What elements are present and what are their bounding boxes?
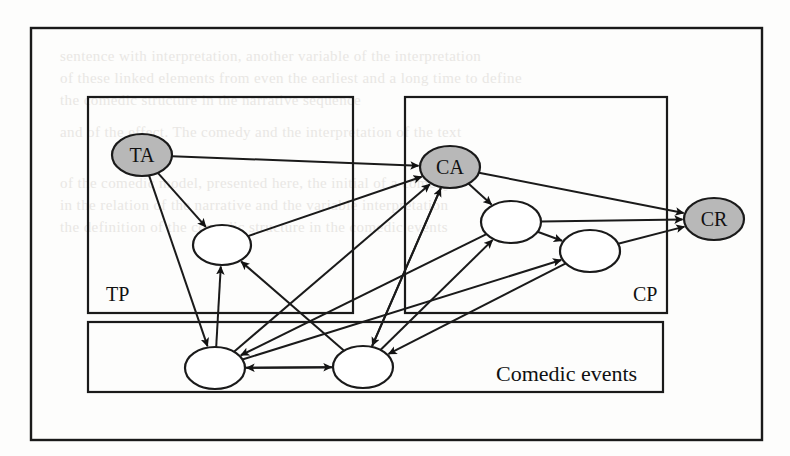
node-shape-cp1[interactable] (481, 201, 541, 243)
node-label-CR: CR (701, 208, 728, 230)
node-CA[interactable]: CA (420, 146, 480, 188)
edge-ce2-to-ca (372, 188, 441, 346)
nodes-group: TACACR (112, 134, 744, 389)
edge-cp2-to-cr (618, 227, 684, 244)
node-TA[interactable]: TA (112, 134, 172, 176)
edge-ca-to-cp1 (468, 184, 491, 205)
container-label-cp: CP (633, 283, 657, 305)
node-shape-ce1[interactable] (185, 347, 245, 389)
container-label-comedic: Comedic events (496, 361, 637, 386)
node-ce1[interactable] (185, 347, 245, 389)
node-CR[interactable]: CR (684, 198, 744, 240)
edge-ce2-to-tp1 (241, 262, 344, 351)
edge-ce2-to-ce1 (246, 367, 333, 368)
edge-ta-to-tp1 (158, 173, 206, 227)
node-tp1[interactable] (193, 225, 251, 265)
container-box-cp (405, 97, 667, 313)
node-label-CA: CA (436, 156, 464, 178)
edge-ce1-to-ca (234, 184, 430, 352)
edge-ta-to-ce1 (149, 175, 208, 346)
edge-ce2-to-cp1 (380, 240, 492, 350)
comedic-structure-diagram: TACACR TPCPComedic events (0, 0, 790, 456)
node-ce2[interactable] (333, 346, 393, 388)
node-shape-cp2[interactable] (560, 230, 620, 272)
edge-cp1-to-cr (541, 219, 683, 221)
node-label-TA: TA (129, 144, 155, 166)
node-cp1[interactable] (481, 201, 541, 243)
node-shape-ce2[interactable] (333, 346, 393, 388)
edge-tp1-to-ca (248, 177, 422, 236)
container-label-tp: TP (106, 283, 129, 305)
node-cp2[interactable] (560, 230, 620, 272)
edge-ce1-to-tp1 (216, 266, 221, 347)
node-shape-tp1[interactable] (193, 225, 251, 265)
edge-cp1-to-cp2 (538, 232, 562, 241)
edge-ta-to-ca (172, 156, 419, 166)
edge-cp2-to-ce2 (389, 263, 566, 354)
